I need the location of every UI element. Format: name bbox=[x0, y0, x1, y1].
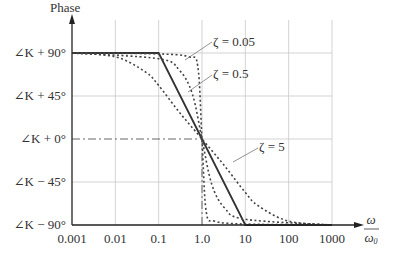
x-tick-label: 10 bbox=[239, 231, 252, 246]
x-tick-label: 0.01 bbox=[104, 231, 127, 246]
x-tick-label: 1.0 bbox=[194, 231, 210, 246]
y-tick-label: ∠K + 90° bbox=[14, 45, 66, 60]
annotation-zeta-5: ζ = 5 bbox=[259, 139, 285, 154]
x-axis-arrow-icon bbox=[354, 222, 364, 228]
y-tick-label: ∠K + 0° bbox=[20, 131, 66, 146]
annotation-zeta-005: ζ = 0.05 bbox=[213, 34, 255, 49]
leader-zeta-005 bbox=[185, 42, 212, 60]
grid-lines bbox=[72, 20, 332, 225]
x-tick-label: 0.001 bbox=[57, 231, 86, 246]
x-tick-labels: 0.0010.010.11.0101001000 bbox=[57, 231, 345, 246]
y-tick-label: ∠K + 45° bbox=[14, 88, 66, 103]
leader-zeta-05 bbox=[188, 75, 212, 92]
x-axis-label-omega: ω bbox=[366, 212, 375, 227]
y-tick-label: ∠K − 90° bbox=[14, 217, 66, 232]
y-tick-label: ∠K − 45° bbox=[14, 174, 66, 189]
y-axis-label: Phase bbox=[50, 0, 81, 15]
y-tick-labels: ∠K + 90°∠K + 45°∠K + 0°∠K − 45°∠K − 90° bbox=[14, 45, 66, 232]
y-axis-arrow-icon bbox=[69, 14, 75, 24]
annotation-zeta-05: ζ = 0.5 bbox=[213, 66, 248, 81]
x-axis-label-omega0: ω0 bbox=[364, 230, 377, 246]
x-tick-label: 1000 bbox=[319, 231, 345, 246]
phase-bode-plot: ∠K + 90°∠K + 45°∠K + 0°∠K − 45°∠K − 90° … bbox=[0, 0, 402, 262]
x-tick-label: 100 bbox=[279, 231, 299, 246]
x-tick-label: 0.1 bbox=[151, 231, 167, 246]
